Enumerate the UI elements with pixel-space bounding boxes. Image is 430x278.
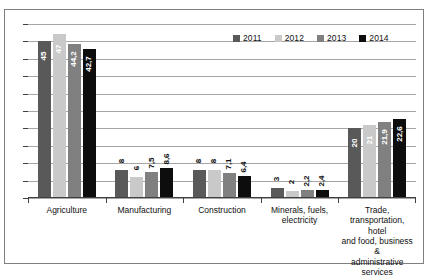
bar-rect: 44,2 <box>68 44 81 198</box>
category-label-4: Minerals, fuels,electricity <box>261 205 339 278</box>
bar-rect: 7,1 <box>223 173 236 198</box>
bar-2011-4[interactable]: 3 <box>271 24 284 198</box>
bar-2012-3[interactable]: 8 <box>208 24 221 198</box>
bar-group: 454744,242,7 <box>28 24 106 198</box>
bar-2011-1[interactable]: 45 <box>38 24 51 198</box>
x-axis-tick <box>183 198 184 203</box>
bar-rect: 8 <box>208 170 221 198</box>
x-axis-tick <box>28 198 29 203</box>
bar-2011-2[interactable]: 8 <box>115 24 128 198</box>
bar-2014-5[interactable]: 22,6 <box>393 24 406 198</box>
bar-2014-2[interactable]: 8,6 <box>160 24 173 198</box>
bar-groups: 454744,242,7867,58,6887,16,4322,22,42021… <box>28 24 416 198</box>
category-label-2: Manufacturing <box>106 205 184 278</box>
bar-rect: 7,5 <box>145 172 158 198</box>
x-axis-tick <box>338 198 339 203</box>
bar-2013-2[interactable]: 7,5 <box>145 24 158 198</box>
bar-2013-3[interactable]: 7,1 <box>223 24 236 198</box>
x-axis-ticks <box>28 198 416 203</box>
category-label-1: Agriculture <box>28 205 106 278</box>
bar-2013-1[interactable]: 44,2 <box>68 24 81 198</box>
category-label-3: Construction <box>183 205 261 278</box>
bar-rect: 47 <box>53 34 66 198</box>
bar-value-label: 44,2 <box>70 51 78 67</box>
bar-value-label: 47 <box>55 45 63 54</box>
bar-2014-3[interactable]: 6,4 <box>238 24 251 198</box>
bar-2014-4[interactable]: 2,4 <box>316 24 329 198</box>
bar-rect: 6 <box>130 177 143 198</box>
legend-item-2013[interactable]: 2013 <box>317 34 346 43</box>
bar-2012-1[interactable]: 47 <box>53 24 66 198</box>
bar-value-label: 20 <box>351 139 359 148</box>
legend-label: 2011 <box>243 34 262 43</box>
chart-legend: 2011201220132014 <box>233 34 389 43</box>
bar-rect: 22,6 <box>393 119 406 198</box>
bar-2014-1[interactable]: 42,7 <box>83 24 96 198</box>
bar-value-label: 8 <box>210 159 218 163</box>
x-axis-tick <box>261 198 262 203</box>
bar-value-label: 45 <box>40 52 48 61</box>
legend-label: 2014 <box>369 34 388 43</box>
legend-item-2012[interactable]: 2012 <box>275 34 304 43</box>
legend-label: 2012 <box>285 34 304 43</box>
bar-value-label: 7,5 <box>148 157 156 168</box>
x-axis-tick <box>106 198 107 203</box>
bar-value-label: 2 <box>288 180 296 184</box>
x-axis-tick <box>415 198 416 203</box>
legend-item-2014[interactable]: 2014 <box>359 34 388 43</box>
bar-value-label: 8 <box>195 159 203 163</box>
bar-2013-5[interactable]: 21,9 <box>378 24 391 198</box>
legend-item-2011[interactable]: 2011 <box>233 34 262 43</box>
bar-rect: 45 <box>38 41 51 198</box>
bar-rect: 8,6 <box>160 168 173 198</box>
legend-swatch-icon <box>233 35 240 42</box>
bar-group: 322,22,4 <box>261 24 339 198</box>
category-label-5: Trade,transportation, hoteland food, bus… <box>338 205 416 278</box>
bar-value-label: 42,7 <box>85 57 93 73</box>
legend-swatch-icon <box>275 35 282 42</box>
bar-2012-2[interactable]: 6 <box>130 24 143 198</box>
x-axis-category-labels: AgricultureManufacturingConstructionMine… <box>28 205 416 278</box>
bar-group: 202121,922,6 <box>338 24 416 198</box>
bar-rect: 8 <box>193 170 206 198</box>
legend-swatch-icon <box>317 35 324 42</box>
bar-rect: 21,9 <box>378 122 391 198</box>
bar-rect: 42,7 <box>83 49 96 198</box>
bar-value-label: 21,9 <box>381 129 389 145</box>
legend-label: 2013 <box>327 34 346 43</box>
bar-value-label: 8 <box>118 159 126 163</box>
bar-2012-4[interactable]: 2 <box>286 24 299 198</box>
bar-rect: 21 <box>363 125 376 198</box>
bar-group: 867,58,6 <box>106 24 184 198</box>
bar-group: 887,16,4 <box>183 24 261 198</box>
bar-value-label: 8,6 <box>163 154 171 165</box>
bar-2012-5[interactable]: 21 <box>363 24 376 198</box>
bar-value-label: 3 <box>273 176 281 180</box>
bar-value-label: 2,2 <box>303 176 311 187</box>
bar-rect: 20 <box>348 128 361 198</box>
bar-value-label: 21 <box>366 135 374 144</box>
chart-frame: 2011201220132014 454744,242,7867,58,6887… <box>4 9 424 264</box>
bar-value-label: 22,6 <box>396 127 404 143</box>
bar-value-label: 6,4 <box>240 161 248 172</box>
bar-value-label: 7,1 <box>225 159 233 170</box>
plot-area: 454744,242,7867,58,6887,16,4322,22,42021… <box>28 24 416 198</box>
legend-swatch-icon <box>359 35 366 42</box>
bar-rect: 8 <box>115 170 128 198</box>
bar-rect: 6,4 <box>238 176 251 198</box>
bar-2013-4[interactable]: 2,2 <box>301 24 314 198</box>
bar-value-label: 2,4 <box>318 175 326 186</box>
bar-2011-3[interactable]: 8 <box>193 24 206 198</box>
bar-2011-5[interactable]: 20 <box>348 24 361 198</box>
bar-value-label: 6 <box>133 166 141 170</box>
